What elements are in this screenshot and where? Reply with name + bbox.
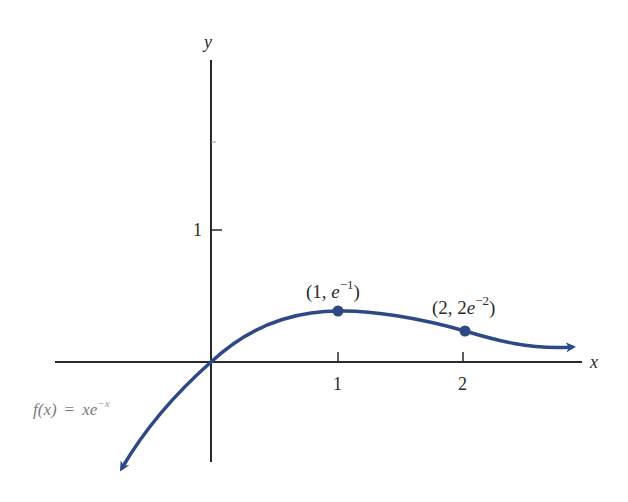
- x-tick-label-2: 2: [458, 374, 467, 394]
- annotation-inflection: (2, 2e−2): [432, 293, 495, 319]
- x-axis-label: x: [589, 352, 598, 372]
- function-curve: [211, 311, 572, 362]
- point-max: [333, 306, 344, 317]
- y-tick-label-1: 1: [193, 220, 202, 240]
- annotation-max: (1, e−1): [306, 277, 360, 303]
- y-axis-label: y: [202, 32, 212, 52]
- point-inflection: [460, 326, 471, 337]
- graph: y x 1 2 1 (1, e−1) (2, 2e−2) f(x)=xe−x: [0, 0, 628, 502]
- function-label: f(x)=xe−x: [33, 397, 110, 419]
- x-tick-label-1: 1: [333, 374, 342, 394]
- function-curve-left: [122, 362, 211, 468]
